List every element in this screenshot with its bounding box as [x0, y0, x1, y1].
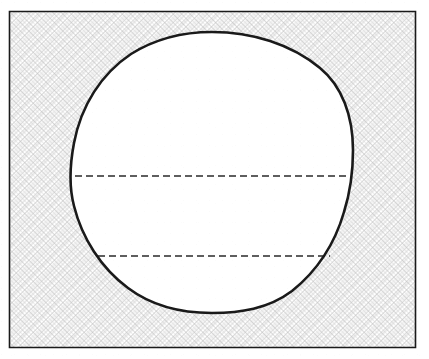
circle-fill [71, 32, 353, 313]
figure-root [0, 0, 429, 359]
figure-canvas [0, 0, 429, 359]
